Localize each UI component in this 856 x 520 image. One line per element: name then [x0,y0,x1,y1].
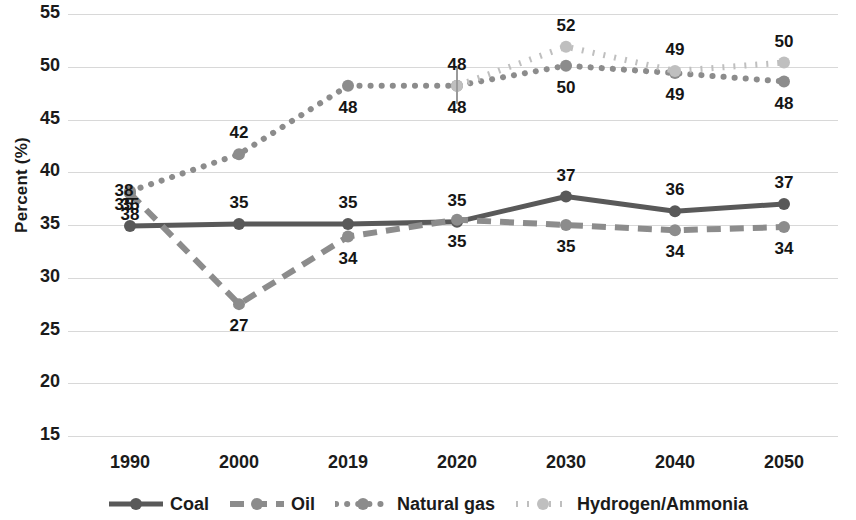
legend-swatch-icon [515,495,571,513]
x-tick-label-2020: 2020 [412,452,502,473]
legend-label: Oil [291,494,315,515]
data-point-marker [778,221,790,233]
point-label-natural-gas-2050: 48 [758,94,810,114]
x-tick-label-2000: 2000 [194,452,284,473]
data-point-marker [560,41,572,53]
point-label-extra-oil-1990: 38 [98,181,150,201]
legend-label: Coal [170,494,209,515]
data-point-marker [669,65,681,77]
data-point-marker [669,205,681,217]
point-label-coal-2020: 35 [431,191,483,211]
point-label-natural-gas-2019: 48 [322,98,374,118]
data-point-marker [451,214,463,226]
x-tick-label-2030: 2030 [521,452,611,473]
data-point-marker [342,231,354,243]
data-point-marker [233,148,245,160]
line-chart: Percent (%) 555045403530252015 353535353… [0,0,856,520]
point-label-natural-gas-2040: 49 [649,85,701,105]
data-point-marker [342,80,354,92]
legend-item-hydrogen-ammonia[interactable]: Hydrogen/Ammonia [515,494,748,515]
data-point-marker [778,57,790,69]
point-label-oil-2020: 35 [431,232,483,252]
point-label-natural-gas-2000: 42 [213,123,265,143]
legend-item-natural-gas[interactable]: Natural gas [335,494,495,515]
point-label-hydrogen-ammonia-2030: 52 [540,16,592,36]
x-tick-label-1990: 1990 [85,452,175,473]
data-point-marker [669,224,681,236]
point-label-hydrogen-ammonia-2020: 48 [431,55,483,75]
legend-swatch-icon [335,495,391,513]
legend-swatch-icon [229,495,285,513]
point-label-oil-2050: 34 [758,239,810,259]
point-label-oil-2040: 34 [649,242,701,262]
point-label-natural-gas-2030: 50 [540,78,592,98]
point-label-coal-2030: 37 [540,166,592,186]
legend-label: Hydrogen/Ammonia [577,494,748,515]
point-label-coal-2050: 37 [758,173,810,193]
point-label-coal-2040: 36 [649,180,701,200]
point-label-oil-2030: 35 [540,237,592,257]
point-label-coal-2000: 35 [213,193,265,213]
x-tick-label-2050: 2050 [739,452,829,473]
data-point-marker [560,191,572,203]
point-label-natural-gas-2020: 48 [431,98,483,118]
legend-item-coal[interactable]: Coal [108,494,209,515]
point-label-oil-2000: 27 [213,316,265,336]
chart-legend: CoalOilNatural gasHydrogen/Ammonia [0,488,856,520]
point-label-hydrogen-ammonia-2040: 49 [649,40,701,60]
point-label-oil-2019: 34 [322,249,374,269]
point-label-hydrogen-ammonia-2050: 50 [758,32,810,52]
x-tick-label-2040: 2040 [630,452,720,473]
data-point-marker [560,219,572,231]
legend-label: Natural gas [397,494,495,515]
data-point-marker [778,76,790,88]
data-point-marker [342,218,354,230]
legend-swatch-icon [108,495,164,513]
series-layer [0,0,856,520]
legend-item-oil[interactable]: Oil [229,494,315,515]
data-point-marker [233,218,245,230]
data-point-marker [560,60,572,72]
point-label-coal-2019: 35 [322,193,374,213]
data-point-marker [233,298,245,310]
data-point-marker [778,198,790,210]
x-tick-label-2019: 2019 [303,452,393,473]
